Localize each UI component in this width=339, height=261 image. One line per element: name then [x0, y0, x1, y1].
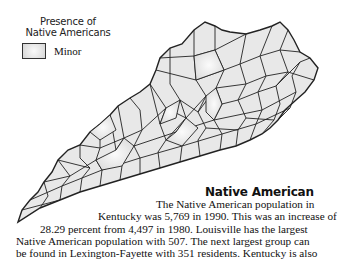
article-line: be found in Lexington-Fayette with 351 r…: [16, 247, 317, 260]
legend-label: Minor: [54, 45, 82, 57]
legend-title-line1: Presence of: [8, 16, 128, 27]
article-line: The Native American population in: [156, 198, 314, 211]
article-line: Native American population with 507. The…: [16, 235, 310, 248]
article-title: Native American: [205, 185, 314, 199]
article-line: Kentucky was 5,769 in 1990. This was an …: [98, 210, 337, 223]
legend-item-minor: Minor: [22, 43, 128, 59]
legend-title-line2: Native Americans: [8, 27, 128, 38]
article-line: 28.29 percent from 4,497 in 1980. Louisv…: [40, 223, 308, 236]
legend-swatch: [22, 43, 46, 59]
map-legend: Presence of Native Americans Minor: [8, 16, 128, 59]
